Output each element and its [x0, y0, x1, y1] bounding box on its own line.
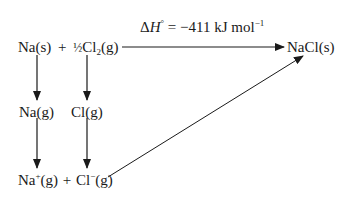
units-exponent: −1 — [255, 18, 265, 28]
na-ion-state: (g) — [41, 172, 59, 188]
enthalpy-units: kJ mol — [210, 19, 254, 35]
plus-sign: + — [58, 39, 66, 55]
delta-symbol: Δ — [140, 19, 150, 35]
ions-label: Na+(g) + Cl−(g) — [18, 172, 113, 188]
enthalpy-label: ΔH° = −411 kJ mol−1 — [140, 19, 264, 35]
na-solid: Na(s) — [18, 39, 51, 55]
cl2-element: Cl — [82, 39, 96, 55]
cl-ion-state: (g) — [95, 172, 113, 188]
plus-sign-bottom: + — [63, 172, 71, 188]
na-gas: Na(g) — [19, 105, 54, 120]
half-fraction: ½ — [73, 41, 82, 55]
h-symbol: H — [150, 19, 161, 35]
equals-sign: = — [164, 19, 180, 35]
na-ion-element: Na — [18, 172, 36, 188]
nacl-solid: NaCl(s) — [287, 40, 335, 55]
cl-ion-element: Cl — [76, 172, 90, 188]
enthalpy-value: −411 — [180, 19, 210, 35]
cl2-state: (g) — [101, 39, 119, 55]
cl-gas: Cl(g) — [71, 105, 103, 120]
reactants-label: Na(s) + ½Cl2(g) — [18, 40, 118, 57]
lattice-enthalpy-arrow — [108, 56, 303, 177]
